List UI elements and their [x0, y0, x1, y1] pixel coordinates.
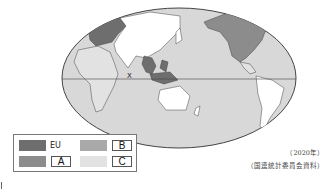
- country-x-label: X: [127, 72, 132, 80]
- legend-label-eu: EU: [50, 141, 61, 150]
- source-year: （2020年）: [286, 147, 324, 157]
- legend-label-c: C: [112, 156, 132, 167]
- legend-swatch-a: [19, 156, 46, 167]
- legend: EU B A C: [13, 134, 137, 172]
- legend-swatch-eu: [19, 140, 46, 151]
- legend-swatch-c: [80, 156, 107, 167]
- legend-label-b: B: [112, 140, 132, 151]
- legend-swatch-b: [80, 140, 107, 151]
- edge-mark: [1, 182, 2, 189]
- legend-label-a: A: [51, 156, 71, 167]
- source-citation: （国連統計委員会資料）: [247, 160, 324, 170]
